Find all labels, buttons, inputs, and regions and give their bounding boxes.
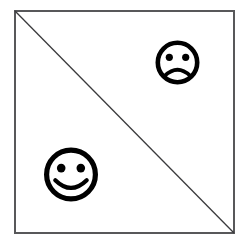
smiley-face-left-eye	[57, 164, 66, 173]
figure-canvas: Square divided by a diagonal with two fa…	[0, 0, 246, 244]
diagram-svg	[0, 0, 246, 244]
smiley-face-right-eye	[77, 164, 86, 173]
smiley-face-outline	[47, 150, 96, 199]
sad-face-icon	[158, 43, 197, 82]
smiley-face-icon	[47, 150, 96, 199]
sad-face-right-eye	[182, 54, 189, 61]
sad-face-left-eye	[166, 54, 173, 61]
